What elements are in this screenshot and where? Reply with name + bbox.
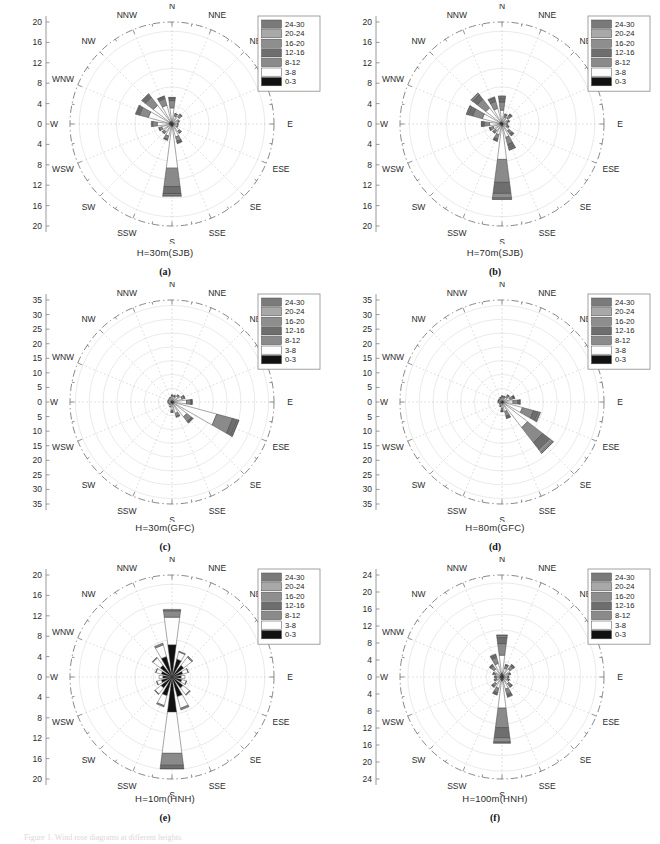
legend-label-24-30: 24-30 — [285, 298, 304, 307]
compass-label-wnw: WNW — [382, 74, 404, 84]
legend-swatch-12-16 — [592, 327, 612, 335]
wind-petal-n-8-12 — [499, 102, 505, 110]
wind-petal-n-12-16 — [169, 98, 176, 101]
legend-label-12-16: 12-16 — [615, 601, 634, 610]
compass-label-sw: SW — [82, 480, 96, 490]
legend-swatch-0-3 — [592, 78, 612, 86]
legend-label-0-3: 0-3 — [285, 630, 296, 639]
legend-label-0-3: 0-3 — [285, 355, 296, 364]
radial-axis-tick: 12 — [363, 723, 373, 733]
legend-label-24-30: 24-30 — [615, 20, 634, 29]
radial-axis-tick: 20 — [33, 339, 43, 349]
compass-label-n: N — [169, 282, 175, 289]
radial-axis-tick: 20 — [363, 757, 373, 767]
legend-label-20-24: 20-24 — [615, 29, 634, 38]
wind-petal-e-3-8 — [181, 675, 185, 678]
legend-swatch-12-16 — [592, 49, 612, 57]
wind-petal-s-8-12 — [164, 168, 180, 186]
compass-label-se: SE — [580, 755, 592, 765]
radial-axis-tick: 10 — [363, 368, 373, 378]
radial-axis-tick: 12 — [33, 180, 43, 190]
panel-d-title: H=80m(GFC) — [330, 522, 660, 533]
legend-swatch-8-12 — [262, 611, 282, 619]
legend-swatch-20-24 — [262, 308, 282, 316]
compass-label-sse: SSE — [539, 228, 556, 238]
radial-axis-tick: 16 — [363, 740, 373, 750]
compass-label-se: SE — [250, 202, 262, 212]
compass-label-s: S — [499, 237, 505, 244]
radial-axis-tick: 16 — [363, 604, 373, 614]
radial-axis-tick: 4 — [367, 689, 372, 699]
radial-axis-tick: 15 — [363, 353, 373, 363]
legend-swatch-12-16 — [262, 602, 282, 610]
panel-e: NNNENEENEEESESESSESSSWSWWSWWWNWNWNNW2016… — [0, 557, 330, 839]
wind-petal-e-16-20 — [520, 400, 521, 405]
compass-label-e: E — [287, 397, 293, 407]
legend-swatch-8-12 — [262, 58, 282, 66]
legend-label-8-12: 8-12 — [615, 336, 630, 345]
legend-label-8-12: 8-12 — [285, 58, 300, 67]
radial-axis-tick: 10 — [33, 426, 43, 436]
wind-petal-w-3-8 — [159, 675, 163, 678]
radial-axis-tick: 8 — [37, 713, 42, 723]
legend-label-0-3: 0-3 — [615, 77, 626, 86]
wind-petal-wsw-8-12 — [499, 403, 500, 404]
panel-d: NNNENEENEEESESESSESSSWSWWSWWWNWNWNNW3530… — [330, 282, 660, 564]
legend-swatch-8-12 — [262, 336, 282, 344]
radial-axis-tick: 8 — [37, 160, 42, 170]
radial-axis-tick: 4 — [367, 139, 372, 149]
radial-axis-tick: 5 — [367, 382, 372, 392]
panel-a-title: H=30m(SJB) — [0, 247, 330, 258]
wind-petal-nnw-8-12 — [169, 397, 170, 398]
radial-axis-tick: 24 — [363, 570, 373, 580]
wind-petal-e-12-16 — [518, 400, 520, 405]
radial-axis-tick: 30 — [363, 484, 373, 494]
legend-swatch-3-8 — [262, 346, 282, 354]
compass-label-e: E — [617, 397, 623, 407]
compass-label-nnw: NNW — [447, 10, 467, 20]
radial-axis-tick: 35 — [33, 499, 43, 509]
legend-swatch-16-20 — [262, 317, 282, 325]
compass-label-w: W — [380, 397, 388, 407]
wind-petal-s-16-20 — [492, 193, 511, 197]
wind-petal-n-8-12 — [169, 101, 175, 108]
radial-axis-tick: 20 — [363, 339, 373, 349]
radial-axis-tick: 0 — [367, 672, 372, 682]
compass-label-n: N — [169, 557, 175, 564]
compass-label-sw: SW — [412, 480, 426, 490]
compass-label-sw: SW — [412, 202, 426, 212]
panel-d-letter: (d) — [330, 541, 660, 552]
compass-label-e: E — [617, 672, 623, 682]
legend-label-12-16: 12-16 — [285, 48, 304, 57]
compass-label-sw: SW — [412, 755, 426, 765]
legend-swatch-16-20 — [592, 39, 612, 47]
legend-swatch-20-24 — [592, 583, 612, 591]
compass-label-nw: NW — [411, 589, 425, 599]
legend-label-8-12: 8-12 — [285, 611, 300, 620]
compass-label-w: W — [50, 397, 58, 407]
wind-petal-w-12-16 — [151, 121, 152, 126]
compass-label-sse: SSE — [209, 228, 226, 238]
compass-label-nne: NNE — [538, 10, 556, 20]
radial-axis-tick: 0 — [37, 119, 42, 129]
compass-label-nne: NNE — [208, 563, 226, 573]
wind-petal-n-12-16 — [163, 609, 181, 610]
wind-petal-s-8-12 — [495, 708, 508, 727]
legend-label-20-24: 20-24 — [285, 29, 304, 38]
legend-swatch-24-30 — [262, 573, 282, 581]
radial-axis-tick: 30 — [33, 310, 43, 320]
compass-label-ese: ESE — [273, 164, 290, 174]
wind-petal-w-8-12 — [153, 121, 158, 126]
wind-petal-w-8-12 — [168, 401, 169, 402]
radial-axis-tick: 20 — [33, 455, 43, 465]
radial-axis-tick: 16 — [363, 201, 373, 211]
compass-label-ssw: SSW — [117, 781, 136, 791]
compass-label-ese: ESE — [273, 717, 290, 727]
compass-label-se: SE — [580, 202, 592, 212]
radial-axis-tick: 10 — [33, 368, 43, 378]
radial-axis-tick: 20 — [363, 17, 373, 27]
legend-swatch-3-8 — [262, 621, 282, 629]
compass-label-sse: SSE — [209, 781, 226, 791]
compass-label-w: W — [50, 672, 58, 682]
wind-petal-s-12-16 — [160, 765, 184, 768]
